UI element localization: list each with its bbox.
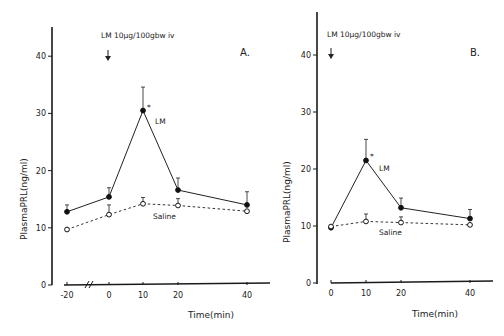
y-tick-label: 30 (301, 108, 311, 117)
y-tick-label: 0 (41, 281, 46, 290)
lm-data-point (141, 108, 146, 113)
arrow-down-icon (328, 48, 334, 59)
y-tick-label: 0 (306, 279, 311, 288)
lm-data-point (399, 205, 404, 210)
y-tick-label: 20 (36, 167, 46, 176)
x-axis-a (64, 283, 270, 285)
saline-data-point (141, 201, 146, 206)
y-tick-label: 20 (301, 165, 311, 174)
panel-label-a: A. (240, 47, 250, 58)
series-label-saline-b: Saline (379, 228, 402, 237)
x-tick-label: 40 (242, 291, 252, 300)
y-tick-label: 10 (301, 222, 311, 231)
panel-a: 010203040-200102040 PlasmaPRL(ng/ml) Tim… (19, 27, 270, 320)
lm-series-line (331, 160, 470, 227)
saline-data-point (107, 212, 112, 217)
x-tick-label: 20 (396, 289, 406, 298)
ticks-a: 010203040-200102040 (36, 52, 252, 300)
arrow-down-icon (105, 50, 111, 61)
plot-area-a: * (65, 87, 250, 232)
x-tick-label: 20 (173, 291, 183, 300)
y-tick-label: 30 (36, 109, 46, 118)
x-tick-label: 40 (465, 289, 475, 298)
x-axis-label-a: Time(min) (187, 310, 234, 320)
saline-data-point (65, 227, 70, 232)
lm-data-point (468, 216, 473, 221)
saline-data-point (329, 224, 334, 229)
significance-star: * (147, 103, 151, 112)
panel-b: 0102030400102040 PlasmaPRL(ng/ml) Time(m… (282, 12, 493, 319)
injection-annotation-a: LM 10µg/100gbw iv (101, 31, 175, 40)
x-tick-label: 0 (328, 289, 333, 298)
series-label-lm-b: LM (379, 164, 390, 173)
lm-data-point (107, 195, 112, 200)
saline-data-point (399, 220, 404, 225)
x-tick-label: 10 (361, 289, 371, 298)
significance-star: * (370, 152, 374, 161)
saline-data-point (176, 203, 181, 208)
x-axis-label-b: Time(min) (411, 309, 458, 319)
saline-data-point (468, 222, 473, 227)
x-axis-b (331, 281, 493, 283)
y-axis-label-a: PlasmaPRL(ng/ml) (19, 158, 29, 240)
figure: 010203040-200102040 PlasmaPRL(ng/ml) Tim… (0, 0, 504, 336)
y-axis-label-b: PlasmaPRL(ng/ml) (282, 161, 292, 243)
x-tick-label: 0 (106, 291, 111, 300)
saline-data-point (245, 209, 250, 214)
panel-label-b: B. (470, 47, 480, 58)
lm-data-point (364, 158, 369, 163)
series-label-lm-a: LM (155, 117, 166, 126)
x-tick-label: -20 (60, 291, 73, 300)
saline-data-point (364, 219, 369, 224)
lm-data-point (245, 203, 250, 208)
y-tick-label: 10 (36, 224, 46, 233)
plot-area-b: * (329, 139, 473, 230)
lm-data-point (65, 209, 70, 214)
y-tick-label: 40 (301, 51, 311, 60)
lm-data-point (176, 188, 181, 193)
y-tick-label: 40 (36, 52, 46, 61)
x-tick-label: 10 (138, 291, 148, 300)
injection-annotation-b: LM 10µg/100gbw iv (327, 30, 401, 39)
series-label-saline-a: Saline (153, 212, 176, 221)
ticks-b: 0102030400102040 (301, 51, 475, 298)
